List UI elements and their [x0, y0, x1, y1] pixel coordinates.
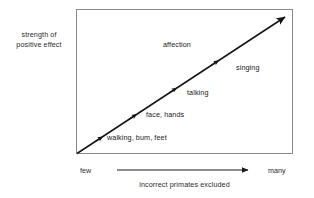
label-affection: affection [163, 40, 191, 49]
label-singing: singing [236, 63, 259, 72]
y-axis-label-line-2: positive effect [6, 40, 72, 50]
y-axis-label: strength of positive effect [6, 30, 72, 50]
x-axis-caption: incorrect primates excluded [76, 180, 293, 189]
x-axis-end-label: many [268, 166, 286, 175]
label-talking: talking [187, 88, 208, 97]
y-axis-label-line-1: strength of [6, 30, 72, 40]
x-axis-start-label: few [80, 166, 91, 175]
figure-container: strength of positive effect walking, bum… [0, 0, 314, 198]
label-walking-bum-feet: walking, bum, feet [107, 133, 167, 142]
label-face-hands: face, hands [146, 110, 184, 119]
